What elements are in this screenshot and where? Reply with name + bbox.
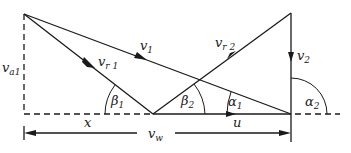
label-vr1: vr 1 — [98, 54, 118, 71]
label-v2: v2 — [297, 48, 310, 65]
v1-vector — [24, 14, 291, 114]
label-beta2: β2 — [180, 93, 195, 110]
vw-right-arrowhead — [279, 130, 291, 136]
velocity-diagram: va1 v1 vr 1 vr 2 v2 β1 β2 α1 α2 x u vw — [0, 0, 351, 153]
vr2-vector — [153, 13, 291, 114]
label-va1: va1 — [2, 60, 20, 77]
label-beta1: β1 — [110, 93, 124, 110]
label-alpha2: α2 — [305, 94, 320, 111]
v2-arrowhead — [288, 52, 294, 62]
label-vw: vw — [148, 126, 163, 143]
label-vr2: vr 2 — [215, 35, 236, 52]
vr1-arrowhead — [82, 57, 95, 68]
label-u: u — [233, 115, 241, 130]
v1-arrowhead — [134, 52, 147, 60]
label-v1: v1 — [140, 38, 153, 55]
label-alpha1: α1 — [228, 94, 243, 111]
beta2-arc — [194, 84, 205, 114]
label-x: x — [84, 115, 92, 130]
vw-left-arrowhead — [24, 130, 36, 136]
